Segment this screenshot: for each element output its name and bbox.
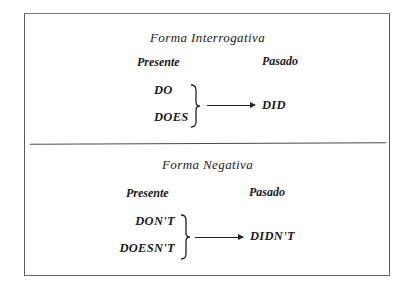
- present-form: DON'T: [135, 215, 175, 228]
- past-form: DID: [262, 99, 286, 112]
- present-form: DO: [154, 84, 173, 97]
- section-title: Forma Interrogativa: [150, 31, 265, 44]
- column-header-past: Pasado: [249, 186, 285, 198]
- arrow-right-icon: [207, 105, 255, 106]
- right-brace-icon: [190, 84, 202, 128]
- section-title: Forma Negativa: [162, 158, 253, 171]
- present-form: DOESN'T: [119, 242, 175, 255]
- column-header-past: Pasado: [262, 55, 298, 67]
- past-form: DIDN'T: [250, 230, 295, 243]
- arrow-right-icon: [195, 237, 243, 238]
- present-form: DOES: [154, 111, 189, 124]
- right-brace-icon: [180, 214, 192, 260]
- column-header-present: Presente: [126, 187, 169, 199]
- column-header-present: Presente: [137, 56, 180, 68]
